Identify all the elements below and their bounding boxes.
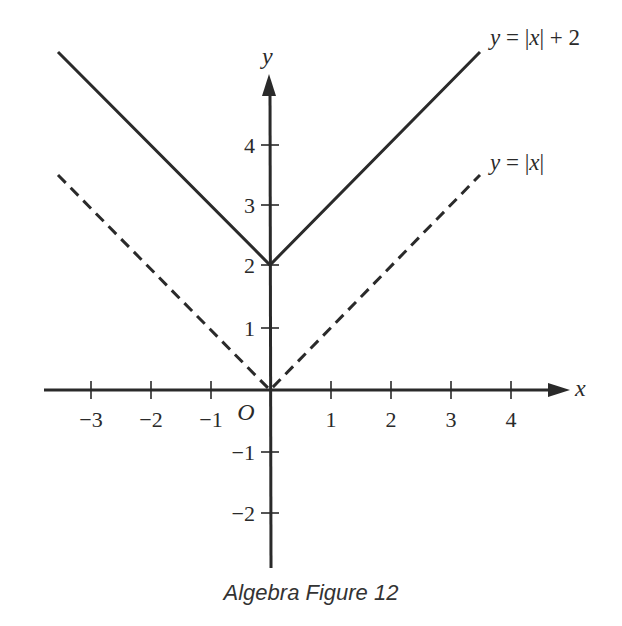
- x-axis: x −3 −2 −1 1 2 3 4: [44, 375, 586, 432]
- y-tick-label: 4: [244, 133, 255, 158]
- absolute-value-graph: x −3 −2 −1 1 2 3 4 y 4 3 2 1 −1 −2 O y =: [0, 0, 622, 626]
- label-abs-x: y = |x|: [488, 150, 544, 175]
- y-tick-label: −1: [232, 440, 255, 465]
- y-tick-label: 2: [244, 253, 255, 278]
- x-tick-label: 2: [386, 407, 397, 432]
- y-tick-label: −2: [232, 501, 255, 526]
- x-axis-label: x: [574, 375, 586, 401]
- y-tick-label: 3: [244, 193, 255, 218]
- x-tick-label: 1: [326, 407, 337, 432]
- y-axis: y 4 3 2 1 −1 −2 O: [232, 43, 279, 568]
- label-abs-x-plus-2: y = |x| + 2: [488, 25, 580, 50]
- y-axis-label: y: [260, 43, 273, 69]
- x-tick-label: −3: [79, 407, 102, 432]
- y-tick-label: 1: [244, 316, 255, 341]
- y-axis-arrow-icon: [262, 74, 276, 96]
- figure-caption: Algebra Figure 12: [0, 580, 622, 606]
- x-axis-arrow-icon: [548, 383, 570, 397]
- x-tick-label: 4: [506, 407, 517, 432]
- origin-label: O: [237, 399, 254, 425]
- x-tick-label: 3: [446, 407, 457, 432]
- x-tick-label: −2: [139, 407, 162, 432]
- x-tick-label: −1: [199, 407, 222, 432]
